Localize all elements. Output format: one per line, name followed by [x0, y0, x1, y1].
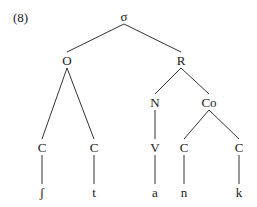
- tree-edge: [181, 68, 209, 94]
- tree-node-c4: C: [235, 141, 244, 154]
- tree-node-onset: O: [62, 54, 71, 67]
- tree-edge: [67, 24, 124, 52]
- tree-edge: [209, 110, 239, 139]
- tree-node-seg2: t: [92, 186, 96, 199]
- tree-node-coda: Co: [201, 96, 216, 109]
- tree-edge: [67, 68, 94, 139]
- tree-node-c1: C: [38, 141, 47, 154]
- tree-node-rhyme: R: [177, 54, 186, 67]
- tree-edge: [155, 68, 181, 94]
- tree-edge: [184, 110, 209, 139]
- tree-node-seg3: a: [152, 186, 158, 199]
- tree-node-sigma: σ: [120, 10, 127, 23]
- tree-edges: [0, 0, 257, 207]
- tree-edge: [42, 68, 67, 139]
- tree-node-seg1: ʃ: [40, 186, 44, 199]
- tree-node-c3: C: [180, 141, 189, 154]
- tree-node-seg4: n: [181, 186, 188, 199]
- tree-node-seg5: k: [236, 186, 243, 199]
- tree-node-c2: C: [90, 141, 99, 154]
- tree-node-nucleus: N: [150, 96, 159, 109]
- tree-edge: [124, 24, 181, 52]
- tree-node-v: V: [150, 141, 159, 154]
